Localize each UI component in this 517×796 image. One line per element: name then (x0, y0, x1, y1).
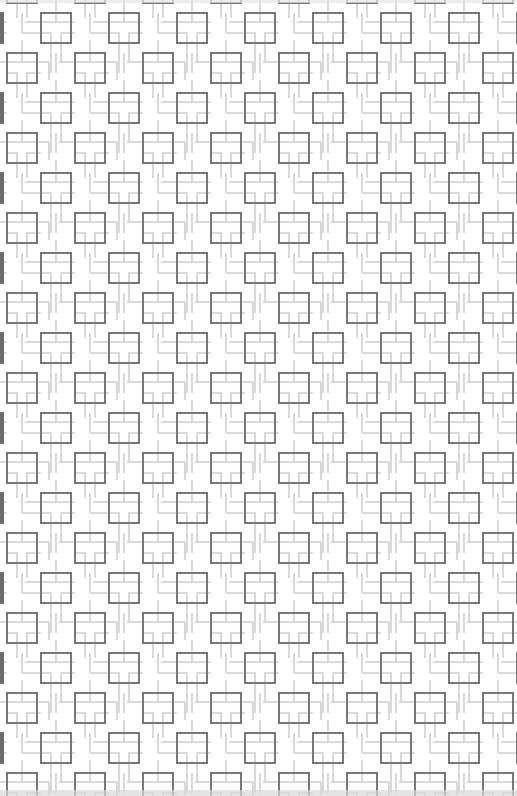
edge-bar (0, 573, 4, 603)
edge-bar (0, 333, 4, 363)
edge-bar (0, 173, 4, 203)
pattern-fill (0, 0, 517, 796)
edge-bar (0, 733, 4, 763)
edge-bar (0, 653, 4, 683)
edge-bar (0, 253, 4, 283)
bottom-edge-band (0, 790, 517, 796)
edge-bar (0, 93, 4, 123)
top-edge-band (0, 0, 517, 3)
pattern-canvas (0, 0, 517, 796)
edge-bar (0, 493, 4, 523)
edge-bar (0, 13, 4, 43)
edge-bar (0, 413, 4, 443)
left-edge-bars (0, 0, 4, 796)
